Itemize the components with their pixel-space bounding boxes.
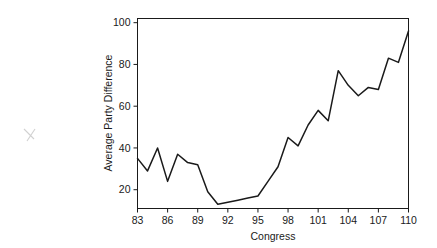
- y-tick-label: 60: [119, 100, 131, 112]
- y-tick-label: 20: [119, 183, 131, 195]
- x-tick-label: 83: [132, 214, 144, 226]
- y-tick-label: 40: [119, 142, 131, 154]
- x-tick-label: 89: [192, 214, 204, 226]
- chart-figure: 20406080100 838689929598101104107110 Con…: [0, 0, 437, 248]
- x-tick-label: 86: [162, 214, 174, 226]
- x-axis-title: Congress: [251, 230, 296, 242]
- x-tick-label: 95: [252, 214, 264, 226]
- x-tick-label: 101: [309, 214, 327, 226]
- line-chart: 20406080100 838689929598101104107110 Con…: [0, 0, 437, 248]
- y-axis-title: Average Party Difference: [102, 54, 114, 171]
- x-tick-label: 110: [400, 214, 417, 226]
- x-tick-label: 98: [282, 214, 294, 226]
- x-tick-label: 104: [340, 214, 358, 226]
- y-tick-label: 80: [119, 58, 131, 70]
- x-tick-label: 107: [370, 214, 388, 226]
- chart-background: [0, 0, 437, 248]
- x-tick-label: 92: [222, 214, 234, 226]
- y-tick-label: 100: [113, 16, 131, 28]
